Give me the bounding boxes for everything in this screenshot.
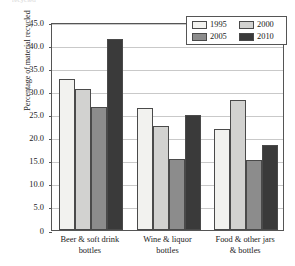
gridline [52, 70, 283, 71]
y-tick-mark [49, 185, 52, 186]
y-tick-mark [49, 208, 52, 209]
bar-2000-group-1 [75, 89, 91, 230]
chart-legend: 1995200020052010 [186, 16, 287, 45]
bar-1995-group-1 [59, 79, 75, 230]
y-tick-label: 20.0 [2, 135, 48, 143]
bar-2005-group-1 [91, 107, 107, 230]
y-tick-label: 45.0 [2, 20, 48, 28]
legend-item-2000[interactable]: 2000 [239, 20, 282, 29]
legend-label-2010: 2010 [257, 32, 274, 41]
y-tick-label: 10.0 [2, 181, 48, 189]
legend-swatch-icon-2005 [192, 33, 207, 41]
y-tick-label: 30.0 [2, 89, 48, 97]
chart-plot-area: 45.040.035.030.025.020.015.010.05.00 [51, 23, 284, 231]
y-tick-mark [49, 70, 52, 71]
y-tick-mark [49, 139, 52, 140]
y-tick-mark [49, 162, 52, 163]
y-tick-label: 15.0 [2, 158, 48, 166]
y-tick-label: 35.0 [2, 66, 48, 74]
legend-swatch-icon-1995 [192, 21, 207, 29]
y-tick-mark [49, 232, 52, 233]
legend-label-2005: 2005 [210, 32, 227, 41]
legend-swatch-icon-2010 [239, 33, 254, 41]
bar-2010-group-2 [185, 115, 201, 230]
bar-1995-group-3 [214, 129, 230, 230]
legend-item-2005[interactable]: 2005 [192, 32, 235, 41]
y-tick-mark [49, 24, 52, 25]
y-tick-label: 25.0 [2, 112, 48, 120]
bar-2005-group-3 [246, 160, 262, 230]
gridline [52, 47, 283, 48]
x-axis-group-label: Food & other jars & bottles [194, 235, 295, 256]
legend-label-2000: 2000 [257, 20, 274, 29]
bar-2000-group-3 [230, 100, 246, 230]
y-tick-mark [49, 116, 52, 117]
legend-item-2010[interactable]: 2010 [239, 32, 282, 41]
bar-1995-group-2 [137, 108, 153, 230]
bar-2000-group-2 [153, 126, 169, 230]
y-tick-mark [49, 47, 52, 48]
y-tick-label: 5.0 [2, 204, 48, 212]
y-tick-label: 40.0 [2, 43, 48, 51]
bar-2005-group-2 [169, 159, 185, 230]
bar-2010-group-3 [262, 145, 278, 230]
legend-label-1995: 1995 [210, 20, 227, 29]
legend-swatch-icon-2000 [239, 21, 254, 29]
bar-2010-group-1 [107, 39, 123, 230]
y-tick-mark [49, 93, 52, 94]
legend-item-1995[interactable]: 1995 [192, 20, 235, 29]
